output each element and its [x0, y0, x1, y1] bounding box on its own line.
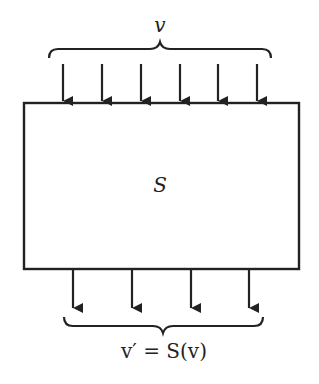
- input-arrows: [63, 64, 257, 101]
- s-box-diagram: v S v′ = S(v): [0, 0, 319, 384]
- input-brace: [49, 42, 271, 58]
- input-label: v: [154, 13, 166, 37]
- box-label: S: [153, 173, 167, 197]
- output-label: v′ = S(v): [120, 339, 207, 363]
- output-brace: [64, 317, 263, 333]
- output-arrows: [73, 270, 249, 308]
